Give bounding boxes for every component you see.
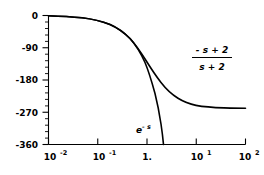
x-label-1e1-mantissa: 10 bbox=[191, 152, 204, 162]
delay-annotation-exponent: - s bbox=[142, 123, 151, 131]
allpass-annotation-denominator: s + 2 bbox=[199, 62, 224, 72]
y-label-180: -180 bbox=[15, 75, 38, 85]
plot-canvas: 10 -2 10 -1 1. 10 1 10 2 0 -90 -180 bbox=[0, 0, 264, 175]
x-axis-tick-labels: 10 -2 10 -1 1. 10 1 10 2 bbox=[44, 149, 260, 162]
x-axis-major-ticks bbox=[49, 139, 246, 145]
y-label-360: -360 bbox=[15, 140, 38, 150]
phase-plot-figure: 10 -2 10 -1 1. 10 1 10 2 0 -90 -180 bbox=[0, 0, 264, 175]
x-label-1: 1. bbox=[142, 152, 152, 162]
x-label-1e2: 10 2 bbox=[239, 149, 260, 162]
x-label-1e2-exponent: 2 bbox=[255, 149, 260, 157]
allpass-annotation: - s + 2 s + 2 bbox=[192, 45, 232, 72]
x-label-1e-2: 10 -2 bbox=[44, 149, 68, 162]
y-axis-tick-labels: 0 -90 -180 -270 -360 bbox=[15, 11, 38, 150]
x-label-1-mantissa: 1. bbox=[142, 152, 152, 162]
delay-annotation: e - s bbox=[136, 123, 151, 136]
y-label-270: -270 bbox=[15, 108, 38, 118]
x-label-1e-2-exponent: -2 bbox=[60, 149, 67, 157]
y-label-90: -90 bbox=[22, 43, 38, 53]
allpass-annotation-numerator: - s + 2 bbox=[196, 45, 228, 55]
x-label-1e1: 10 1 bbox=[191, 149, 212, 162]
x-label-1e-1-mantissa: 10 bbox=[93, 152, 106, 162]
x-label-1e1-exponent: 1 bbox=[207, 149, 212, 157]
x-label-1e-1-exponent: -1 bbox=[109, 149, 117, 157]
y-label-0: 0 bbox=[32, 11, 38, 21]
x-label-1e-2-mantissa: 10 bbox=[44, 152, 57, 162]
x-label-1e2-mantissa: 10 bbox=[239, 152, 252, 162]
x-label-1e-1: 10 -1 bbox=[93, 149, 117, 162]
